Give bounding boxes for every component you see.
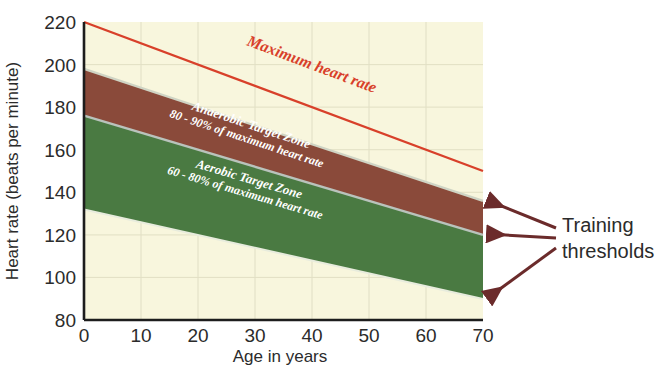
y-axis-title: Heart rate (beats per minute) (3, 62, 22, 280)
x-tick-label: 0 (79, 325, 90, 346)
x-tick-label: 10 (130, 325, 151, 346)
y-tick-label: 120 (44, 225, 76, 246)
y-tick-label: 180 (44, 97, 76, 118)
y-tick-label: 140 (44, 182, 76, 203)
x-axis-title: Age in years (233, 347, 328, 366)
heart-rate-training-zones-chart: 220 200 180 160 140 120 100 80 0 10 20 3… (0, 0, 658, 367)
x-tick-label: 60 (415, 325, 436, 346)
training-thresholds-line1: Training (562, 214, 634, 236)
x-tick-label: 70 (472, 325, 493, 346)
x-tick-label: 30 (244, 325, 265, 346)
x-tick-label: 20 (187, 325, 208, 346)
y-tick-label: 100 (44, 267, 76, 288)
chart-svg: 220 200 180 160 140 120 100 80 0 10 20 3… (0, 0, 658, 367)
y-tick-label: 160 (44, 140, 76, 161)
training-thresholds-line2: thresholds (562, 240, 654, 262)
x-tick-label: 40 (301, 325, 322, 346)
x-tick-label: 50 (358, 325, 379, 346)
y-tick-label: 200 (44, 55, 76, 76)
y-tick-label: 80 (55, 310, 76, 331)
y-tick-label: 220 (44, 12, 76, 33)
